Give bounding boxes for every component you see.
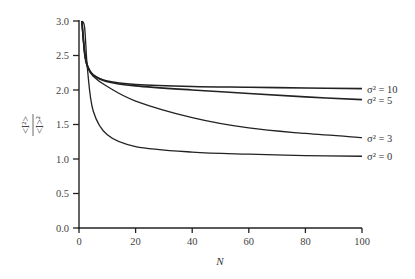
x-tick-label: 100 xyxy=(354,236,370,247)
y-tick-label: 1.5 xyxy=(56,119,69,130)
y-tick-label: 3.0 xyxy=(56,16,69,27)
series-line xyxy=(82,21,362,89)
x-tick-label: 20 xyxy=(130,236,141,247)
y-tick-label: 1.0 xyxy=(56,154,69,165)
y-tick-label: 2.0 xyxy=(56,85,69,96)
y-axis-ticks: 0.00.51.01.52.02.53.0 xyxy=(56,16,79,234)
x-tick-label: 60 xyxy=(244,236,255,247)
y-axis-title-numerator: <I²> xyxy=(20,116,31,134)
y-axis-title-denominator: <I>² xyxy=(34,116,45,134)
y-axis-title: <I²> <I>² xyxy=(20,114,45,136)
x-tick-label: 40 xyxy=(187,236,198,247)
series-label: σ² = 5 xyxy=(367,95,392,106)
x-axis-title: N xyxy=(215,255,224,267)
series-label: σ² = 10 xyxy=(367,84,397,95)
series-label: σ² = 0 xyxy=(367,151,392,162)
x-tick-label: 80 xyxy=(300,236,311,247)
x-axis-ticks: 020406080100 xyxy=(76,228,370,247)
series-labels: σ² = 10σ² = 5σ² = 3σ² = 0 xyxy=(367,84,397,163)
y-tick-label: 0.5 xyxy=(56,188,69,199)
y-tick-label: 2.5 xyxy=(56,50,69,61)
chart: 020406080100 0.00.51.01.52.02.53.0 σ² = … xyxy=(0,0,415,279)
y-tick-label: 0.0 xyxy=(56,223,69,234)
plot-lines xyxy=(82,21,362,156)
x-tick-label: 0 xyxy=(76,236,81,247)
axes xyxy=(78,20,362,229)
series-label: σ² = 3 xyxy=(367,133,392,144)
series-line xyxy=(82,21,362,138)
